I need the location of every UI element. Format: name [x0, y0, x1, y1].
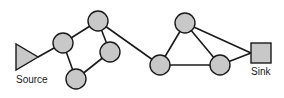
source-node: Source — [16, 44, 48, 85]
source-triangle-icon — [16, 44, 38, 70]
node-n3 — [100, 42, 120, 62]
edge-n6-sink — [185, 23, 251, 53]
intermediate-nodes — [53, 11, 230, 89]
node-n4 — [66, 69, 86, 89]
flow-network-diagram: Source Sink — [0, 0, 284, 98]
sink-node: Sink — [251, 43, 271, 77]
node-n6 — [175, 13, 195, 33]
node-n2 — [88, 11, 108, 31]
node-n7 — [210, 55, 230, 75]
node-n5 — [150, 55, 170, 75]
sink-label: Sink — [251, 66, 271, 77]
source-label: Source — [16, 74, 48, 85]
sink-square-icon — [251, 43, 271, 63]
node-n1 — [53, 33, 73, 53]
